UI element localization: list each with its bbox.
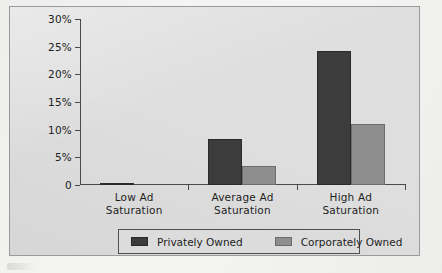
bar-group <box>188 19 296 185</box>
y-axis-tick-label: 5% <box>55 151 72 163</box>
category-label-line: Saturation <box>188 204 296 217</box>
legend-item-label: Corporately Owned <box>301 236 403 248</box>
scanned-page: 05%10%15%20%25%30% Low AdSaturationAvera… <box>0 0 442 273</box>
legend-item-label: Privately Owned <box>157 236 243 248</box>
category-label-line: Low Ad <box>80 191 188 204</box>
y-axis-tick-label: 25% <box>48 41 72 53</box>
legend-item-privately-owned[interactable]: Privately Owned <box>131 236 243 248</box>
x-axis-category-label: High AdSaturation <box>297 191 405 216</box>
chart-frame: 05%10%15%20%25%30% Low AdSaturationAvera… <box>9 6 420 256</box>
bar-privately-owned <box>208 139 242 185</box>
y-axis-tick <box>75 185 80 186</box>
plot-area: 05%10%15%20%25%30% <box>80 19 405 185</box>
x-axis-category-label: Low AdSaturation <box>80 191 188 216</box>
x-axis-tick <box>405 185 406 190</box>
x-axis-tick <box>188 185 189 190</box>
y-axis-tick-label: 30% <box>48 13 72 25</box>
legend-item-corporately-owned[interactable]: Corporately Owned <box>275 236 403 248</box>
x-axis-category-label: Average AdSaturation <box>188 191 296 216</box>
legend-swatch-icon <box>131 237 148 246</box>
bar-privately-owned <box>317 51 351 185</box>
chart-legend: Privately OwnedCorporately Owned <box>118 229 360 254</box>
category-label-line: Saturation <box>80 204 188 217</box>
scan-artifact <box>7 263 37 270</box>
category-label-line: Average Ad <box>188 191 296 204</box>
y-axis-tick-label: 10% <box>48 124 72 136</box>
bar-group <box>80 19 188 185</box>
y-axis-tick-label: 20% <box>48 68 72 80</box>
bar-privately-owned <box>100 183 134 185</box>
y-axis-tick-label: 0 <box>65 179 72 191</box>
bar-corporately-owned <box>242 166 276 185</box>
bar-corporately-owned <box>351 124 385 185</box>
x-axis-tick <box>297 185 298 190</box>
category-label-line: Saturation <box>297 204 405 217</box>
y-axis-tick-label: 15% <box>48 96 72 108</box>
category-label-line: High Ad <box>297 191 405 204</box>
legend-swatch-icon <box>275 237 292 246</box>
bar-group <box>297 19 405 185</box>
